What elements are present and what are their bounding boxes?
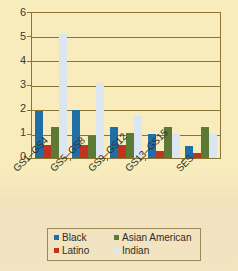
bar [156,151,164,158]
bar [88,136,96,158]
bar [193,153,201,158]
y-axis-tick-label: 5 [2,31,26,42]
legend-swatch-icon [114,248,119,253]
legend-item-latino: Latino [54,245,114,256]
y-axis-tick-label: 1 [2,127,26,138]
legend-item-indian: Indian [114,245,149,256]
y-axis-tick-label: 2 [2,103,26,114]
bar [209,134,217,158]
bar [201,127,209,158]
y-axis-tick-label: 3 [2,79,26,90]
legend-swatch-icon [54,248,59,253]
legend-item-asian-american: Asian American [114,232,191,243]
legend-label: Black [62,232,86,243]
chart-figure: 6 5 4 3 2 1 0 GS1–GS4 GS5–GS8 GS9–GS12 G… [0,0,238,271]
chart-legend: Black Asian American Latino Indian [47,228,201,261]
bar [96,83,104,158]
legend-row: Latino Indian [54,245,195,258]
legend-row: Black Asian American [54,232,195,245]
bar-group [32,13,70,158]
y-axis-tick-label: 4 [2,55,26,66]
bar-group [182,13,220,158]
bar-group [70,13,108,158]
legend-label: Asian American [122,232,191,243]
legend-swatch-icon [114,235,119,240]
legend-label: Indian [122,245,149,256]
bar [172,134,180,158]
bar [51,127,59,158]
legend-label: Latino [62,245,89,256]
bar [59,34,67,158]
legend-item-black: Black [54,232,114,243]
y-axis-tick-label: 6 [2,7,26,18]
legend-swatch-icon [54,235,59,240]
